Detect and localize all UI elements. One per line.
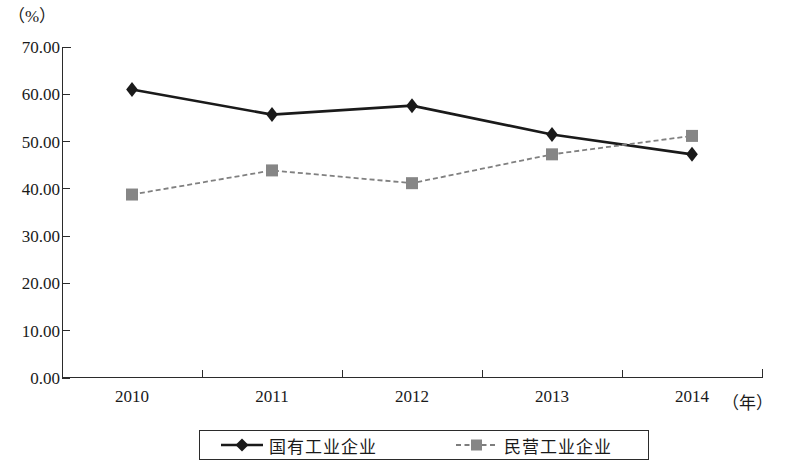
data-point-marker [266, 107, 278, 122]
y-axis-tick-label: 20.00 [0, 275, 60, 292]
legend-label-soe: 国有工业企业 [269, 433, 377, 458]
y-axis-tick-label: 70.00 [0, 39, 60, 56]
data-point-marker [406, 98, 418, 113]
x-axis-tick-label: 2013 [507, 387, 597, 407]
y-axis-unit-label: （%） [8, 2, 56, 27]
line-chart-figure: （%） （年） 0.0010.0020.0030.0040.0050.0060.… [0, 0, 786, 463]
y-axis-tick-label: 0.00 [0, 370, 60, 387]
x-axis-tick-label: 2012 [367, 387, 457, 407]
data-point-marker [686, 130, 698, 142]
y-axis-tick-label: 50.00 [0, 134, 60, 151]
data-point-marker [126, 189, 138, 201]
data-point-marker [126, 82, 138, 97]
series-plot-layer [62, 47, 763, 378]
x-axis-tick-label: 2010 [87, 387, 177, 407]
data-point-marker [266, 164, 278, 176]
square-marker-icon [455, 437, 499, 453]
plot-area: 0.0010.0020.0030.0040.0050.0060.0070.00 … [62, 47, 763, 378]
chart-legend: 国有工业企业 民营工业企业 [199, 430, 649, 460]
data-point-marker [406, 177, 418, 189]
diamond-marker-icon [220, 437, 264, 453]
y-axis-tick-label: 30.00 [0, 228, 60, 245]
x-axis-tick-label: 2014 [647, 387, 737, 407]
y-axis-tick-label: 60.00 [0, 86, 60, 103]
legend-entry-soe: 国有工业企业 [220, 433, 377, 458]
data-point-marker [546, 148, 558, 160]
legend-label-private: 民营工业企业 [504, 433, 612, 458]
y-axis-tick-label: 10.00 [0, 323, 60, 340]
legend-entry-private: 民营工业企业 [455, 433, 612, 458]
data-point-marker [546, 127, 558, 142]
data-point-marker [686, 147, 698, 162]
x-axis-tick-label: 2011 [227, 387, 317, 407]
y-axis-tick-label: 40.00 [0, 181, 60, 198]
